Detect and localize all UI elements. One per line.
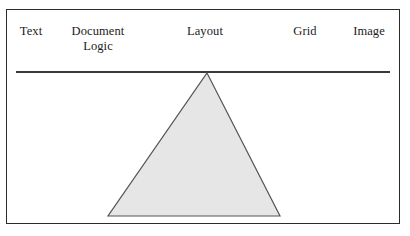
column-label-text: Text: [1, 24, 61, 39]
horizontal-rule: [16, 71, 390, 73]
column-label-document-logic: Document Logic: [58, 24, 138, 53]
column-label-grid: Grid: [275, 24, 335, 39]
document-figure: Text Document Logic Layout Grid Image: [0, 0, 410, 236]
column-label-image: Image: [338, 24, 400, 39]
column-label-row: Text Document Logic Layout Grid Image: [0, 0, 410, 62]
column-label-layout: Layout: [170, 24, 240, 39]
